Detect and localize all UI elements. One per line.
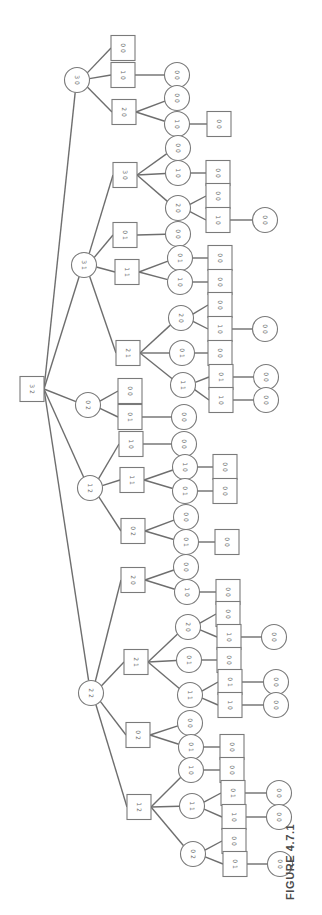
- node-label: 0 0: [174, 70, 181, 80]
- node-label: 1 1: [129, 475, 136, 485]
- player-one-node: 0 0: [206, 161, 230, 186]
- player-two-node: 1 1: [178, 683, 203, 708]
- tree-edge: [200, 614, 216, 623]
- player-two-node: 1 0: [165, 112, 190, 137]
- player-one-node: 1 0: [208, 317, 232, 342]
- node-label: 0 0: [217, 277, 224, 287]
- player-two-node: 1 1: [180, 794, 205, 819]
- player-one-node: 0 0: [220, 735, 244, 760]
- tree-edge: [150, 726, 178, 735]
- tree-edge: [148, 662, 179, 688]
- node-label: 1 0: [184, 587, 191, 597]
- player-one-node: 0 0: [208, 341, 232, 366]
- node-label: 0 2: [135, 730, 142, 740]
- player-two-node: 0 1: [174, 530, 199, 555]
- player-one-node: 0 0: [220, 758, 244, 783]
- player-one-node: 0 0: [216, 580, 240, 605]
- node-label: 1 0: [174, 119, 181, 129]
- tree-edge: [139, 261, 168, 272]
- node-label: 0 0: [263, 395, 270, 405]
- node-label: 1 1: [187, 690, 194, 700]
- player-one-node: 0 2: [121, 519, 145, 544]
- tree-edge: [95, 580, 121, 681]
- player-two-node: 0 0: [165, 63, 190, 88]
- player-two-node: 3 1: [72, 253, 97, 278]
- player-one-node: 0 0: [111, 36, 135, 61]
- player-two-node: 0 1: [170, 341, 195, 366]
- node-label: 2 0: [175, 203, 182, 213]
- player-one-node: 0 2: [126, 723, 150, 748]
- node-label: 0 1: [230, 788, 237, 798]
- node-label: 1 0: [177, 277, 184, 287]
- tree-edge: [100, 408, 118, 417]
- player-one-node: 0 0: [208, 246, 232, 271]
- node-label: 0 0: [276, 812, 283, 822]
- player-one-node: 0 1: [221, 781, 245, 806]
- player-one-node: 2 0: [121, 568, 145, 593]
- tree-edge: [99, 444, 119, 479]
- player-one-node: 0 0: [206, 184, 230, 209]
- player-one-node: 1 0: [111, 63, 135, 88]
- player-one-node: 0 1: [218, 670, 242, 695]
- tree-edge: [136, 112, 165, 121]
- tree-edge: [144, 480, 173, 488]
- node-label: 1 0: [175, 168, 182, 178]
- tree-edge: [145, 531, 174, 539]
- player-two-node: 2 0: [169, 306, 194, 331]
- tree-edge: [140, 325, 171, 353]
- tree-edge: [145, 580, 175, 589]
- node-label: 0 1: [179, 348, 186, 358]
- node-label: 1 0: [231, 812, 238, 822]
- node-label: 1 0: [217, 324, 224, 334]
- player-one-node: 0 1: [113, 223, 137, 248]
- tree-edge: [148, 634, 178, 662]
- player-two-node: 0 0: [264, 670, 289, 695]
- tree-edge: [205, 841, 222, 850]
- player-one-node: 0 0: [118, 379, 142, 404]
- player-two-node: 1 0: [173, 455, 198, 480]
- player-two-node: 2 0: [176, 615, 201, 640]
- tree-edge: [195, 377, 209, 382]
- node-label: 0 0: [216, 119, 223, 129]
- node-label: 0 0: [120, 43, 127, 53]
- player-two-node: 2 0: [166, 196, 191, 221]
- player-two-node: 0 0: [174, 555, 199, 580]
- tree-edge: [145, 570, 174, 580]
- tree-edge: [190, 212, 206, 220]
- tree-edge: [205, 857, 223, 864]
- player-two-node: 0 1: [177, 648, 202, 673]
- tree-edge: [140, 353, 172, 379]
- node-label: 1 0: [218, 395, 225, 405]
- tree-edge: [90, 276, 116, 353]
- node-label: 0 1: [227, 677, 234, 687]
- tree-edge: [89, 175, 113, 254]
- player-two-node: 0 1: [179, 735, 204, 760]
- node-label: 1 0: [188, 765, 195, 775]
- player-one-node: 2 0: [112, 100, 136, 125]
- node-label: 0 0: [183, 512, 190, 522]
- node-label: 0 0: [187, 718, 194, 728]
- tree-edge: [202, 698, 218, 705]
- tree-edge: [151, 806, 180, 807]
- tree-edge: [137, 173, 166, 175]
- player-two-node: 1 2: [78, 476, 103, 501]
- tree-edge: [101, 662, 124, 686]
- node-label: 3 1: [81, 260, 88, 270]
- tree-edge: [87, 48, 111, 73]
- node-label: 0 0: [231, 836, 238, 846]
- node-label: 0 1: [127, 412, 134, 422]
- player-two-node: 0 0: [172, 405, 197, 430]
- tree-edge: [94, 235, 113, 258]
- node-label: 0 0: [127, 386, 134, 396]
- node-label: 2 0: [185, 622, 192, 632]
- tree-edge: [151, 807, 184, 846]
- player-one-node: 2 1: [116, 341, 140, 366]
- player-two-node: 0 0: [174, 505, 199, 530]
- tree-edge: [87, 87, 112, 112]
- node-label: 0 0: [181, 439, 188, 449]
- node-label: 2 0: [121, 107, 128, 117]
- player-two-node: 0 0: [262, 625, 287, 650]
- node-label: 0 2: [130, 526, 137, 536]
- node-label: 0 2: [85, 400, 92, 410]
- player-one-node: 1 1: [115, 260, 139, 285]
